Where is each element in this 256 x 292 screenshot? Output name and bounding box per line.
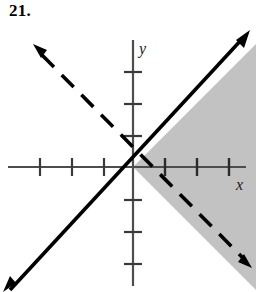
y-axis-label: y	[137, 40, 147, 58]
solid-line-arrow-down-left	[3, 276, 16, 292]
x-axis-label: x	[235, 176, 243, 193]
coordinate-graph: x y	[0, 0, 256, 292]
math-figure-21: 21.	[0, 0, 256, 292]
